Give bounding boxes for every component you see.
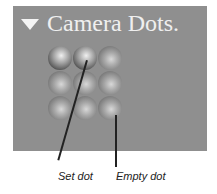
camera-dot-empty[interactable]	[98, 71, 122, 95]
camera-dot-empty[interactable]	[98, 96, 122, 120]
set-dot-label: Set dot	[58, 170, 93, 182]
panel-title: Camera Dots.	[47, 10, 179, 37]
panel-header[interactable]: Camera Dots.	[21, 10, 179, 37]
empty-dot-label: Empty dot	[116, 170, 166, 182]
camera-dots-panel: Camera Dots.	[13, 6, 207, 151]
camera-dot-empty[interactable]	[48, 71, 72, 95]
camera-dot-set[interactable]	[48, 46, 72, 70]
triangle-down-icon[interactable]	[21, 19, 39, 30]
empty-dot-leader-line	[115, 115, 117, 167]
camera-dot-empty[interactable]	[48, 96, 72, 120]
camera-dots-grid	[48, 46, 123, 121]
camera-dot-empty[interactable]	[98, 46, 122, 70]
camera-dot-empty[interactable]	[73, 96, 97, 120]
